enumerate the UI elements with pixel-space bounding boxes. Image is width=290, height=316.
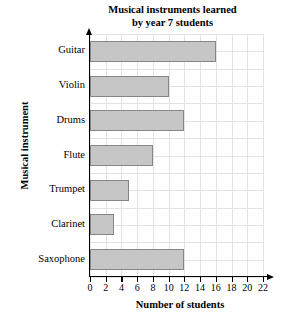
x-tick-label: 22	[251, 282, 275, 293]
category-label-trumpet: Trumpet	[0, 183, 85, 194]
gridline-horizontal	[90, 34, 263, 35]
gridline-horizontal	[90, 225, 263, 226]
gridline-horizontal	[90, 103, 263, 104]
bar-chart: Musical instruments learned by year 7 st…	[0, 0, 290, 316]
gridline-vertical	[263, 34, 264, 277]
bar-clarinet	[90, 214, 114, 235]
chart-title-line-1: Musical instruments learned	[60, 3, 285, 16]
bar-violin	[90, 76, 169, 97]
category-label-drums: Drums	[0, 114, 85, 125]
gridline-horizontal	[90, 208, 263, 209]
chart-title-line-2: by year 7 students	[60, 16, 285, 29]
bar-guitar	[90, 41, 216, 62]
gridline-horizontal	[90, 138, 263, 139]
x-axis-arrow-icon	[267, 274, 274, 280]
x-axis-line	[89, 276, 269, 277]
category-label-guitar: Guitar	[0, 44, 85, 55]
chart-title: Musical instruments learned by year 7 st…	[60, 3, 285, 29]
y-axis-arrow-icon	[86, 28, 92, 35]
category-label-violin: Violin	[0, 79, 85, 90]
bar-flute	[90, 145, 153, 166]
bar-saxophone	[90, 249, 184, 270]
x-axis-title: Number of students	[90, 299, 270, 310]
gridline-horizontal	[90, 69, 263, 70]
gridline-horizontal	[90, 173, 263, 174]
y-axis-line	[89, 34, 90, 277]
category-label-clarinet: Clarinet	[0, 218, 85, 229]
gridline-horizontal	[90, 242, 263, 243]
bar-drums	[90, 110, 184, 131]
category-label-saxophone: Saxophone	[0, 253, 85, 264]
bar-trumpet	[90, 180, 129, 201]
category-label-flute: Flute	[0, 149, 85, 160]
plot-area	[90, 34, 263, 277]
